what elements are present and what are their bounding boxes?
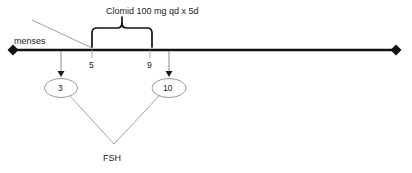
tick-label-day-9: 9 bbox=[147, 60, 152, 70]
fsh-day3-bubble-label: 3 bbox=[58, 83, 63, 93]
fsh-day3-arrowhead-icon bbox=[58, 71, 65, 77]
clomid-regimen-label: Clomid 100 mg qd x 5d bbox=[106, 6, 199, 16]
menses-label: menses bbox=[14, 36, 46, 46]
fsh-callout-line-left bbox=[70, 96, 114, 144]
clomid-brace bbox=[92, 23, 152, 47]
fsh-label: FSH bbox=[103, 153, 121, 163]
tick-label-day-5: 5 bbox=[89, 60, 94, 70]
fsh-callout-line-right bbox=[114, 96, 159, 144]
fsh-day10-bubble-label: 10 bbox=[163, 83, 173, 93]
diagram-canvas: menses Clomid 100 mg qd x 5d 5 9 3 10 FS… bbox=[0, 0, 412, 173]
cycle-timeline-diagram: menses Clomid 100 mg qd x 5d 5 9 3 10 FS… bbox=[0, 0, 412, 173]
timeline-start-diamond-icon bbox=[8, 45, 19, 56]
fsh-day10-arrowhead-icon bbox=[166, 71, 173, 77]
timeline-end-diamond-icon bbox=[391, 45, 402, 56]
